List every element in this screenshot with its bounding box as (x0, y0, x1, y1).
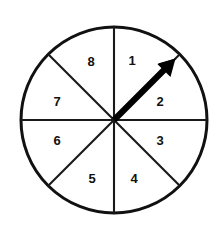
spinner-diagram: 1 2 3 4 5 6 7 8 (0, 0, 217, 229)
sector-label-4: 4 (130, 171, 138, 186)
sector-label-8: 8 (87, 54, 94, 69)
sector-label-7: 7 (53, 94, 60, 109)
sector-label-2: 2 (156, 94, 163, 109)
sector-label-3: 3 (156, 133, 163, 148)
spinner-figure: 1 2 3 4 5 6 7 8 (0, 0, 217, 229)
sector-label-6: 6 (53, 133, 60, 148)
sector-label-1: 1 (128, 53, 135, 68)
sector-label-5: 5 (88, 171, 95, 186)
